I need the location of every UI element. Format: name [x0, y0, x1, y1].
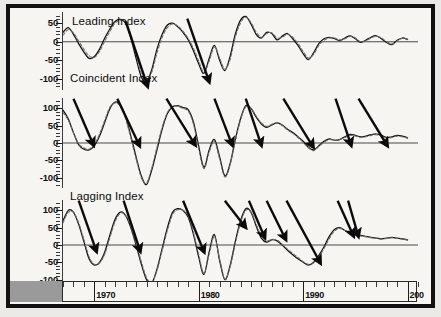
x-tick-label: 200	[410, 290, 424, 300]
y-tick-minor	[56, 45, 60, 46]
x-tick-minor	[355, 282, 356, 287]
x-tick-minor	[261, 282, 262, 287]
y-tick-minor	[56, 64, 60, 65]
y-axis-labels: 500-50-100100500-50-100100500-50-100	[0, 12, 58, 280]
x-tick-minor	[73, 282, 74, 287]
x-tick-minor	[105, 282, 106, 287]
y-tick-minor	[56, 221, 60, 222]
y-tick-minor	[56, 273, 60, 274]
series-label-leading: Leading Index	[72, 15, 146, 27]
y-tick-minor	[56, 101, 60, 102]
y-tick-minor	[56, 248, 60, 249]
series-label-lagging: Lagging Index	[70, 190, 144, 202]
y-tick-minor	[56, 217, 60, 218]
x-tick-minor	[209, 282, 210, 287]
y-tick-minor	[56, 167, 60, 168]
y-tick-minor	[56, 34, 60, 35]
y-tick-minor	[56, 133, 60, 134]
x-tick-minor	[115, 282, 116, 287]
x-tick-minor	[324, 282, 325, 287]
y-tick-minor	[56, 252, 60, 253]
x-tick-minor	[366, 282, 367, 287]
y-tick-minor	[56, 157, 60, 158]
x-tick-minor	[282, 282, 283, 287]
series-label-coincident: Coincident Index	[70, 72, 157, 84]
axis-corner-block	[10, 281, 62, 302]
y-tick-minor	[56, 115, 60, 116]
y-tick-minor	[56, 140, 60, 141]
chart-figure: 500-50-100100500-50-100100500-50-100 Lea…	[0, 0, 441, 317]
y-tick-minor	[56, 86, 60, 87]
x-tick-major	[303, 282, 304, 302]
y-tick-minor	[56, 269, 60, 270]
x-tick-minor	[63, 282, 64, 287]
series-line-lagging-0	[63, 208, 408, 284]
plot-area: Leading Index Coincident Index Lagging I…	[62, 12, 417, 280]
y-tick-minor	[56, 105, 60, 106]
y-tick-minor	[56, 224, 60, 225]
panel-coincident-index	[62, 98, 417, 188]
y-tick-minor	[56, 122, 60, 123]
y-tick-minor	[56, 242, 60, 243]
x-tick-label: 1980	[201, 290, 220, 300]
x-tick-minor	[178, 282, 179, 287]
y-tick-minor	[56, 174, 60, 175]
y-tick-minor	[56, 153, 60, 154]
x-tick-label: 1990	[305, 290, 324, 300]
y-tick-minor	[56, 203, 60, 204]
y-tick-minor	[56, 119, 60, 120]
x-axis: 197019801990200	[62, 281, 417, 302]
x-tick-label: 1970	[96, 290, 115, 300]
y-tick-minor	[56, 31, 60, 32]
x-tick-minor	[272, 282, 273, 287]
y-tick-minor	[56, 75, 60, 76]
y-tick-minor	[56, 19, 60, 20]
panel-plot-coincident	[63, 98, 418, 188]
y-tick-minor	[56, 136, 60, 137]
x-tick-minor	[376, 282, 377, 287]
x-tick-minor	[241, 282, 242, 287]
y-tick-minor	[56, 49, 60, 50]
y-tick-minor	[56, 181, 60, 182]
x-tick-major	[408, 282, 409, 302]
panel-lagging-index	[62, 200, 417, 290]
y-tick-minor	[56, 112, 60, 113]
y-tick-minor	[56, 214, 60, 215]
y-tick-minor	[56, 57, 60, 58]
y-tick-minor	[56, 150, 60, 151]
y-tick-minor	[56, 83, 60, 84]
y-tick-minor	[56, 16, 60, 17]
x-tick-minor	[314, 282, 315, 287]
y-tick-minor	[56, 129, 60, 130]
y-tick-minor	[56, 164, 60, 165]
y-tick-minor	[56, 238, 60, 239]
x-tick-minor	[293, 282, 294, 287]
x-tick-minor	[188, 282, 189, 287]
x-tick-major	[199, 282, 200, 302]
y-tick-minor	[56, 146, 60, 147]
y-tick-minor	[56, 171, 60, 172]
x-tick-minor	[251, 282, 252, 287]
x-tick-minor	[387, 282, 388, 287]
x-tick-minor	[84, 282, 85, 287]
y-tick-minor	[56, 276, 60, 277]
x-tick-minor	[136, 282, 137, 287]
y-tick-minor	[56, 68, 60, 69]
y-tick-minor	[56, 266, 60, 267]
panel-plot-lagging	[63, 200, 418, 290]
x-tick-minor	[230, 282, 231, 287]
x-tick-minor	[345, 282, 346, 287]
x-tick-minor	[126, 282, 127, 287]
y-tick-minor	[56, 53, 60, 54]
x-tick-minor	[147, 282, 148, 287]
x-tick-minor	[220, 282, 221, 287]
y-tick-minor	[56, 207, 60, 208]
y-tick-minor	[56, 71, 60, 72]
x-tick-minor	[418, 282, 419, 287]
x-tick-minor	[334, 282, 335, 287]
x-tick-minor	[167, 282, 168, 287]
y-tick-minor	[56, 231, 60, 232]
y-tick-minor	[56, 38, 60, 39]
x-tick-minor	[397, 282, 398, 287]
y-tick-minor	[56, 27, 60, 28]
